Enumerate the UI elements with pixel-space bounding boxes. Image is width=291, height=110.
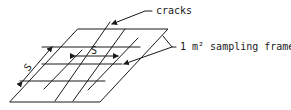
cracks-label: cracks <box>156 5 192 16</box>
diagonal-cracks <box>44 22 138 101</box>
cracks-leader-line <box>112 11 152 24</box>
frame-leader-line-top <box>163 36 176 47</box>
spacing-label-horizontal: S <box>91 45 97 56</box>
spacing-label-diagonal: S <box>22 61 34 73</box>
sampling-frame <box>10 29 168 102</box>
frame-label: 1 m² sampling frame <box>180 41 291 52</box>
crack-diagram: S S cracks 1 m² sampling frame <box>0 0 291 110</box>
frame-leader-line-bottom <box>124 47 172 64</box>
